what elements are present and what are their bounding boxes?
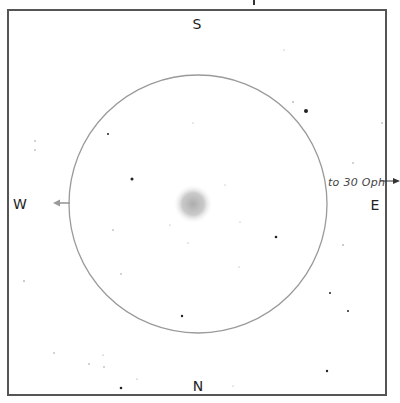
star	[23, 280, 25, 282]
star	[103, 366, 104, 367]
star	[352, 162, 353, 163]
star	[120, 273, 121, 274]
star	[53, 352, 54, 353]
star	[112, 229, 113, 230]
finder-chart: S N W E to 30 Oph	[0, 0, 400, 403]
pointer-label: to 30 Oph	[328, 177, 385, 188]
star	[347, 310, 349, 312]
star	[170, 225, 171, 226]
star	[329, 292, 331, 294]
star	[304, 109, 308, 113]
star	[120, 387, 123, 390]
star	[136, 378, 137, 379]
star	[102, 354, 103, 355]
label-west: W	[13, 197, 27, 211]
star	[188, 243, 189, 244]
star	[342, 244, 344, 246]
star	[107, 133, 109, 135]
star	[181, 315, 183, 317]
star	[326, 370, 328, 372]
west-arrow-icon	[53, 200, 70, 207]
star	[275, 236, 278, 239]
star	[233, 386, 234, 387]
star	[193, 123, 194, 124]
label-east: E	[371, 198, 380, 212]
star	[131, 178, 134, 181]
star	[88, 363, 89, 364]
sky-field	[0, 0, 400, 403]
label-south: S	[193, 17, 202, 31]
star	[225, 185, 226, 186]
star	[381, 122, 382, 123]
star	[34, 140, 35, 141]
star	[240, 222, 241, 223]
star	[239, 267, 240, 268]
star	[284, 50, 285, 51]
nebulous-object	[173, 184, 213, 224]
star	[292, 101, 294, 103]
label-north: N	[193, 379, 203, 393]
star	[34, 149, 35, 150]
